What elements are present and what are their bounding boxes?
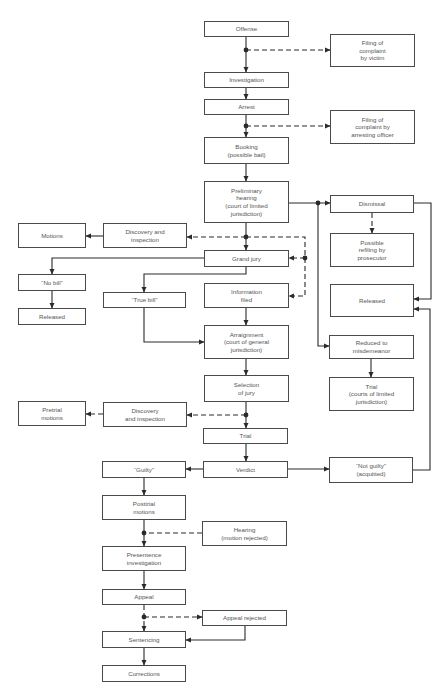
node-pretrial: Pretrial motions (18, 401, 86, 426)
junction-dot-icon (244, 235, 249, 240)
junction-dot-icon (244, 124, 249, 129)
node-investigation: Investigation (204, 72, 289, 88)
node-guilty: “Guilty” (102, 461, 186, 478)
node-released-left: Released (18, 308, 86, 325)
node-presentence: Presentence investigation (102, 546, 186, 571)
junction-dot-icon (244, 413, 249, 418)
node-not-guilty: “Not guilty” (acquitted) (329, 457, 413, 483)
node-offense: Offense (204, 21, 289, 37)
node-posttrial: Posttrial motions (102, 495, 186, 520)
node-trial-limited: Trial (courts of limited jurisdiction) (329, 377, 414, 411)
node-released-right: Released (330, 284, 414, 317)
flowchart-canvas: OffenseFiling of complaint by victimInve… (0, 0, 447, 698)
node-arraignment: Arraignment (court of general jurisdicti… (204, 325, 289, 359)
junction-dot-icon (244, 48, 249, 53)
node-refiling: Possible refiling by prosecutor (330, 233, 414, 267)
node-sentencing: Sentencing (102, 631, 186, 648)
junction-dot-icon (316, 201, 321, 206)
connector-15 (52, 258, 204, 274)
node-discovery1: Discovery and inspection (103, 223, 187, 248)
node-misdemeanor: Reduced to misdemeanor (329, 335, 414, 359)
connector-7 (318, 203, 329, 346)
node-motions: Motions (18, 223, 86, 248)
node-appeal: Appeal (102, 589, 186, 605)
node-selection: Selection of jury (204, 375, 289, 402)
node-discovery2: Discovery and inspection (103, 402, 187, 427)
node-verdict: Verdict (203, 461, 288, 478)
node-arrest: Arrest (204, 99, 289, 115)
node-filing-officer: Filing of complaint by arresting officer (330, 110, 415, 144)
node-dismissal: Dismissal (330, 195, 414, 213)
connector-35 (186, 626, 245, 640)
node-appeal-rejected: Appeal rejected (202, 610, 287, 626)
connector-9 (414, 203, 431, 299)
node-information: Information filed (204, 283, 289, 308)
junction-dot-icon (303, 256, 308, 261)
junction-dot-icon (142, 615, 147, 620)
node-trial: Trial (203, 428, 288, 444)
node-no-bill: “No bill” (18, 274, 86, 291)
node-filing-victim: Filing of complaint by victim (330, 34, 415, 67)
node-hearing: Hearing (motion rejected) (202, 521, 287, 546)
node-true-bill: “True bill” (103, 292, 186, 308)
node-corrections: Corrections (102, 665, 186, 682)
node-booking: Booking (possible bail) (204, 137, 289, 164)
junction-dot-icon (142, 531, 147, 536)
connector-18 (144, 308, 204, 342)
node-grand-jury: Grand jury (204, 250, 289, 267)
connector-28 (413, 309, 430, 470)
node-preliminary: Preliminary hearing (court of limited ju… (204, 181, 289, 223)
